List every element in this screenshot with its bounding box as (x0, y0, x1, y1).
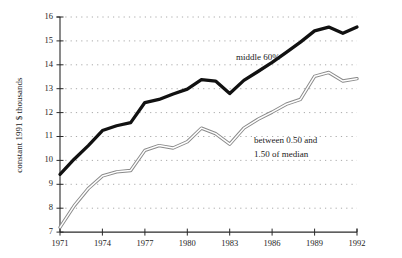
y-tick-label-9: 9 (49, 178, 53, 188)
x-tick-label-1986: 1986 (264, 238, 281, 248)
annotation-between-median-line2: 1.50 of median (254, 149, 309, 159)
y-tick-label-11: 11 (45, 130, 53, 140)
axes (57, 17, 358, 232)
gridlines (60, 17, 357, 208)
y-tick-label-15: 15 (45, 35, 54, 45)
x-tick-label-1980: 1980 (179, 238, 196, 248)
x-tick-label-1971: 1971 (52, 238, 69, 248)
y-tick-label-13: 13 (45, 83, 54, 93)
y-tick-label-12: 12 (45, 107, 54, 117)
annotation-middle-60: middle 60% (236, 52, 280, 62)
annotation-between-median-line1: between 0.50 and (254, 135, 318, 145)
x-tick-label-1989: 1989 (306, 238, 323, 248)
x-tick-label-1983: 1983 (221, 238, 238, 248)
y-tick-label-7: 7 (49, 226, 53, 236)
y-tick-labels: 16 15 14 13 12 11 10 9 8 7 (45, 11, 54, 236)
y-tick-label-10: 10 (45, 154, 54, 164)
x-tick-label-1977: 1977 (136, 238, 153, 248)
series-line-between-median-outline (60, 72, 357, 227)
series-line-between-median-fill (60, 72, 357, 227)
line-chart: 16 15 14 13 12 11 10 9 8 7 1971 1974 197 (0, 0, 402, 258)
series-line-middle-60 (60, 27, 357, 174)
x-tick-label-1974: 1974 (94, 238, 112, 248)
y-tick-label-14: 14 (45, 59, 54, 69)
x-tick-label-1992: 1992 (349, 238, 366, 248)
y-tick-label-8: 8 (49, 202, 53, 212)
y-axis-title: constant 1991 $ thousands (14, 77, 24, 173)
y-tick-label-16: 16 (45, 11, 54, 21)
x-tick-labels: 1971 1974 1977 1980 1983 1986 1989 1992 (52, 238, 366, 248)
chart-container: 16 15 14 13 12 11 10 9 8 7 1971 1974 197 (0, 0, 402, 258)
